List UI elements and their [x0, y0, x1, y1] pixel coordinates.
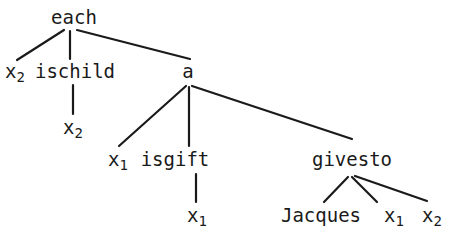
tree-node-x2c: x2	[422, 206, 442, 225]
tree-node-subscript: 1	[120, 157, 128, 173]
tree-edge-a-to-givesto	[192, 86, 352, 139]
syntax-parse-tree-figure: eachx2ischildax2x1isgiftgivestox1Jacques…	[0, 0, 457, 240]
tree-node-label: x	[63, 116, 74, 138]
tree-node-subscript: 2	[17, 69, 25, 85]
tree-node-subscript: 1	[396, 213, 404, 229]
tree-edges	[17, 30, 427, 202]
tree-node-subscript: 2	[75, 125, 83, 141]
tree-edge-a-to-x1a	[119, 86, 186, 146]
tree-node-givesto: givesto	[312, 150, 392, 169]
tree-node-jacques: Jacques	[281, 206, 361, 225]
tree-node-label: x	[422, 204, 433, 226]
tree-node-each: each	[51, 8, 97, 27]
tree-node-x1b: x1	[187, 206, 207, 225]
tree-node-label: each	[51, 6, 97, 28]
tree-node-label: givesto	[312, 148, 392, 170]
tree-edge-givesto-to-x2c	[355, 176, 427, 201]
tree-node-label: ischild	[35, 60, 115, 82]
tree-node-x1c: x1	[384, 206, 404, 225]
tree-edge-each-to-x2a	[17, 30, 64, 60]
tree-node-x2b: x2	[63, 118, 83, 137]
tree-node-label: isgift	[141, 148, 210, 170]
tree-node-subscript: 2	[434, 213, 442, 229]
tree-node-label: x	[384, 204, 395, 226]
tree-node-x1a: x1	[108, 150, 128, 169]
tree-node-x2a: x2	[5, 62, 25, 81]
tree-edge-each-to-a	[77, 30, 190, 59]
tree-node-isgift: isgift	[141, 150, 210, 169]
tree-node-label: Jacques	[281, 204, 361, 226]
tree-node-ischild: ischild	[35, 62, 115, 81]
tree-edge-givesto-to-jacques	[324, 177, 348, 202]
tree-node-label: x	[5, 60, 16, 82]
tree-node-subscript: 1	[199, 213, 207, 229]
tree-node-label: a	[182, 60, 193, 82]
tree-edge-givesto-to-x1c	[352, 177, 377, 202]
tree-node-label: x	[187, 204, 198, 226]
tree-node-a: a	[182, 62, 193, 81]
tree-node-label: x	[108, 148, 119, 170]
